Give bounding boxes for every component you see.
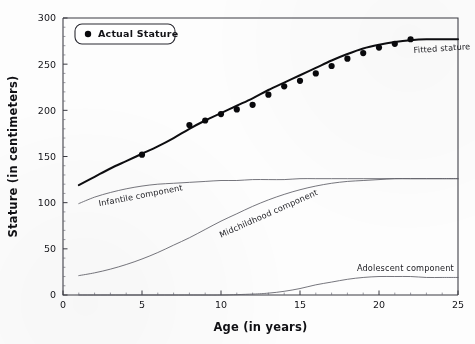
y-tick-label: 300 xyxy=(38,12,56,23)
figure-root: 0510152025050100150200250300 Fitted stat… xyxy=(0,0,475,344)
y-tick-label: 200 xyxy=(38,105,56,116)
x-tick-label: 20 xyxy=(373,299,385,310)
stature-growth-chart: 0510152025050100150200250300 Fitted stat… xyxy=(0,0,475,344)
data-point xyxy=(392,41,398,47)
data-point xyxy=(408,36,414,42)
y-tick-label: 250 xyxy=(38,59,56,70)
data-point xyxy=(186,122,192,128)
annotation-midchildhood-component: Midchildhood component xyxy=(218,187,320,240)
x-tick-label: 10 xyxy=(215,299,227,310)
y-tick-label: 100 xyxy=(38,197,56,208)
chart-canvas: 0510152025050100150200250300 Fitted stat… xyxy=(0,0,475,344)
data-point xyxy=(139,152,145,158)
y-axis-title: Stature (in centimeters) xyxy=(6,76,20,238)
data-point xyxy=(202,117,208,123)
curve-adolescent-component xyxy=(79,276,458,295)
y-tick-label: 50 xyxy=(44,243,56,254)
data-point xyxy=(360,50,366,56)
data-point xyxy=(234,106,240,112)
x-tick-label: 15 xyxy=(294,299,306,310)
data-points xyxy=(139,36,414,158)
data-point xyxy=(218,111,224,117)
axis-frame-top-right xyxy=(63,18,458,295)
y-tick-label: 0 xyxy=(50,289,56,300)
x-tick-label: 25 xyxy=(452,299,464,310)
curves xyxy=(79,39,458,295)
data-point xyxy=(329,63,335,69)
x-tick-label: 0 xyxy=(60,299,66,310)
legend-marker-icon xyxy=(85,31,91,37)
y-tick-label: 150 xyxy=(38,151,56,162)
data-point xyxy=(281,83,287,89)
legend[interactable]: Actual Stature xyxy=(75,24,178,44)
legend-label-actual-stature: Actual Stature xyxy=(98,28,178,39)
curve-annotations: Fitted statureInfantile componentMidchil… xyxy=(98,41,471,273)
data-point xyxy=(344,56,350,62)
annotation-adolescent-component: Adolescent component xyxy=(357,263,455,273)
data-point xyxy=(297,78,303,84)
axis-frame xyxy=(63,18,458,295)
curve-fitted-stature xyxy=(79,39,458,185)
data-point xyxy=(313,70,319,76)
x-tick-label: 5 xyxy=(139,299,145,310)
data-point xyxy=(376,44,382,50)
data-point xyxy=(250,102,256,108)
x-axis-title: Age (in years) xyxy=(214,320,308,334)
data-point xyxy=(265,92,271,98)
annotation-fitted-stature: Fitted stature xyxy=(413,41,470,55)
